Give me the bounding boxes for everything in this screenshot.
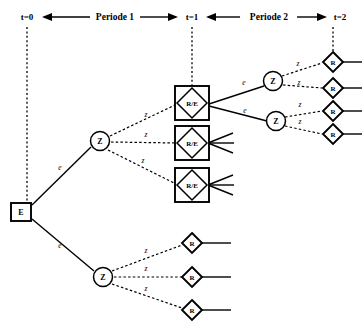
edge-e-to-z-lower (32, 219, 94, 271)
edge-zr2-to-r4 (285, 126, 322, 134)
edge-re-to-z-r1 (209, 86, 264, 104)
edge-label-z-r-7: z (144, 284, 148, 293)
terminal-line-layer (202, 62, 362, 310)
node-e-root-label: E (18, 208, 23, 217)
node-e-root[interactable]: E (11, 203, 31, 221)
edge-label-z-r-4: z (298, 117, 302, 126)
node-z-right-1-label: Z (270, 77, 275, 86)
edge-label-e-zr-2: e (243, 106, 247, 115)
node-r-1[interactable]: R (323, 52, 343, 72)
timeline-tick-t2: t=2 (334, 12, 347, 22)
edge-label-z-re-3: z (141, 156, 145, 165)
timeline-tick-t0: t=0 (21, 12, 34, 22)
node-r-3[interactable]: R (323, 101, 343, 121)
node-re-3-label: R/E (186, 182, 198, 190)
diagram-canvas: t=0 t=1 t=2 Periode 1 Periode 2 (0, 0, 362, 331)
node-z-right-1[interactable]: Z (264, 72, 283, 91)
edge-z-to-re-1 (110, 105, 175, 136)
node-r-2[interactable]: R (323, 78, 343, 98)
edge-e-to-z-upper (32, 147, 91, 205)
edge-z-to-re-2 (111, 142, 176, 143)
edge-label-z-re-2: z (144, 130, 148, 139)
edge-zr2-to-r3 (285, 111, 322, 117)
node-z-right-2[interactable]: Z (267, 112, 286, 131)
edge-label-z-re-1: z (144, 110, 148, 119)
node-z-upper[interactable]: Z (91, 132, 110, 151)
edge-label-e-z-upper: e (58, 163, 62, 172)
edge-zr1-to-r2 (283, 85, 322, 88)
node-z-lower-label: Z (100, 273, 105, 282)
timeline-axis: t=0 t=1 t=2 Periode 1 Periode 2 (21, 12, 347, 22)
node-r-7[interactable]: R (182, 300, 202, 320)
node-re-2-label: R/E (186, 140, 198, 148)
node-re-1[interactable]: R/E (175, 86, 209, 120)
edge-label-z-r-1: z (296, 59, 300, 68)
edge-re-to-z-r2 (209, 106, 267, 121)
edge-label-e-z-lower: e (58, 241, 62, 250)
node-r-5[interactable]: R (182, 233, 202, 253)
period-1-label: Periode 1 (96, 12, 135, 22)
decision-tree-svg: t=0 t=1 t=2 Periode 1 Periode 2 (0, 0, 362, 331)
timeline-tick-t1: t=1 (186, 12, 199, 22)
node-z-lower[interactable]: Z (94, 268, 113, 287)
node-z-right-2-label: Z (273, 117, 278, 126)
period-2-label: Periode 2 (250, 12, 289, 22)
node-re-2[interactable]: R/E (175, 126, 209, 160)
edge-zr1-to-r1 (282, 63, 322, 76)
node-r-6[interactable]: R (182, 267, 202, 287)
edge-label-z-r-5: z (144, 246, 148, 255)
node-z-upper-label: Z (97, 137, 102, 146)
stub-fan-re-3 (208, 175, 234, 195)
node-re-1-label: R/E (186, 100, 198, 108)
edge-label-z-r-6: z (144, 264, 148, 273)
edge-label-z-r-2: z (297, 78, 301, 87)
node-r-4[interactable]: R (323, 124, 343, 144)
edge-label-e-zr-1: e (242, 78, 246, 87)
node-re-3[interactable]: R/E (175, 168, 209, 202)
stub-fan-re-2 (208, 133, 234, 153)
edge-label-z-r-3: z (298, 100, 302, 109)
